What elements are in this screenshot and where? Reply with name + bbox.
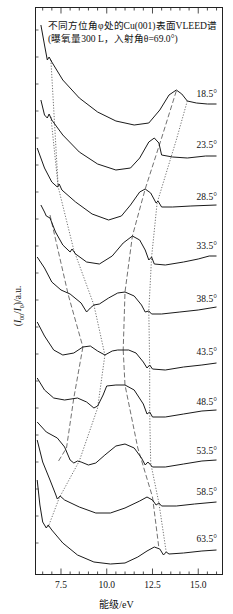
x-tick-label: 7.5 — [55, 580, 67, 590]
spectrum-curve — [37, 422, 216, 467]
dotted-guide-line — [51, 60, 94, 305]
curve-label: 38.5° — [197, 294, 217, 304]
x-tick-label: 10.0 — [98, 580, 115, 590]
y-axis-label: (I00/I0)/a.u. — [13, 261, 25, 351]
curve-label: 43.5° — [197, 347, 217, 357]
spectrum-curve — [37, 480, 216, 564]
spectrum-curve — [41, 100, 217, 170]
curve-label: 63.5° — [197, 534, 217, 544]
x-tick-label: 15.0 — [190, 580, 207, 590]
x-tick-label: 12.5 — [144, 580, 161, 590]
dashed-guide-line — [57, 347, 83, 463]
dotted-guide-line — [94, 305, 105, 355]
dashed-guide-line — [50, 215, 83, 347]
spectrum-curve — [37, 148, 216, 220]
spectrum-curve — [41, 205, 217, 265]
curve-label: 18.5° — [197, 89, 217, 99]
dashed-guide-line — [123, 91, 176, 350]
curve-label: 28.5° — [197, 192, 217, 202]
spectra-curves — [37, 25, 216, 564]
chart-title: 不同方位角φ处的Cu(001)表面VLEED谱 — [48, 20, 217, 32]
curve-label: 58.5° — [197, 487, 217, 497]
x-axis-label: 能级/eV — [0, 596, 233, 611]
curve-label: 23.5° — [197, 140, 217, 150]
curve-label: 33.5° — [197, 241, 217, 251]
dashed-guide-line — [123, 350, 159, 548]
spectrum-curve — [37, 440, 216, 513]
dotted-guide-line — [149, 101, 188, 552]
spectrum-curve — [37, 257, 216, 314]
chart-subtitle: (曝氧量300 L，入射角θ=69.0°) — [48, 33, 178, 45]
spectrum-curve — [37, 378, 216, 417]
guide-lines — [48, 60, 187, 552]
spectrum-curve — [37, 322, 216, 370]
curve-label: 48.5° — [197, 397, 217, 407]
curve-label: 53.5° — [197, 446, 217, 456]
